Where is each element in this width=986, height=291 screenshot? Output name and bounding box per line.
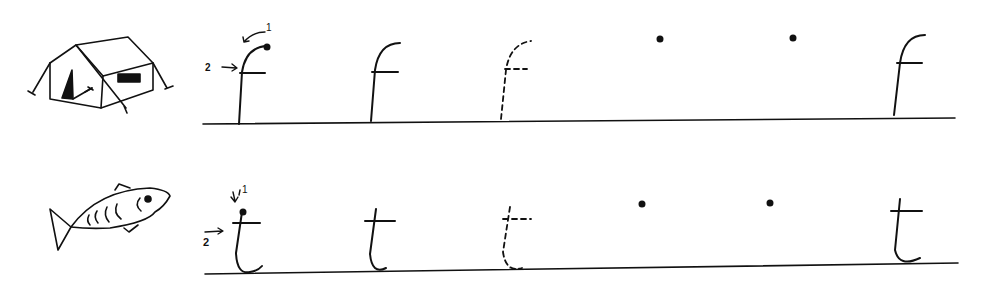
solid-letter-f bbox=[894, 35, 925, 115]
stroke-label-2: 2 bbox=[203, 236, 209, 248]
solid-letter-t bbox=[891, 199, 922, 262]
start-dot bbox=[791, 36, 796, 41]
stroke-arrow-2-icon bbox=[205, 228, 223, 234]
start-dot bbox=[768, 201, 773, 206]
tent-icon bbox=[28, 37, 173, 113]
start-dot bbox=[658, 37, 663, 42]
stroke-arrow-1-icon bbox=[231, 190, 240, 202]
stroke-arrow-1-icon bbox=[243, 32, 265, 42]
solid-letter-t bbox=[365, 209, 395, 270]
model-letter-f bbox=[239, 45, 270, 125]
model-letter-t bbox=[233, 210, 262, 273]
stroke-label-1: 1 bbox=[242, 184, 248, 195]
stroke-arrow-2-icon bbox=[222, 64, 237, 71]
stroke-label-2: 2 bbox=[205, 62, 211, 73]
start-dot bbox=[640, 202, 645, 207]
solid-letter-f bbox=[371, 43, 400, 121]
fish-icon bbox=[50, 184, 170, 250]
baseline-row2 bbox=[205, 263, 958, 274]
baseline-row1 bbox=[203, 118, 955, 124]
dashed-letter-f bbox=[501, 41, 531, 119]
stroke-label-1: 1 bbox=[266, 22, 272, 33]
worksheet-canvas: 2 1 1 2 bbox=[0, 0, 986, 291]
dashed-letter-t bbox=[503, 207, 531, 269]
